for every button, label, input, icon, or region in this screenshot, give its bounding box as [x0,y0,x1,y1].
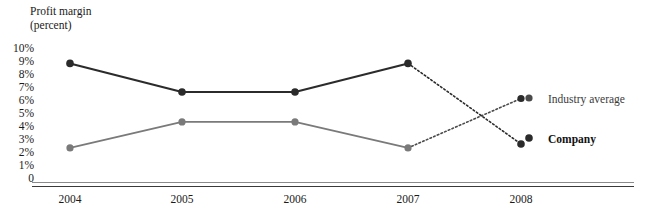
data-point [517,140,525,148]
company-solid-line [70,63,408,92]
data-point [517,95,524,102]
company-projection-line [408,63,521,144]
legend-company-marker [525,134,533,142]
data-point [178,118,185,125]
data-point [404,60,412,68]
legend-item-company: Company [548,133,596,145]
legend-item-industry-average: Industry average [548,93,625,105]
x-axis-tick-2008: 2008 [491,193,551,205]
data-point [66,60,74,68]
x-axis-tick-2006: 2006 [265,193,325,205]
legend-markers [525,94,533,141]
series-industry-average [66,95,524,152]
data-point [291,118,298,125]
x-axis-tick-2007: 2007 [378,193,438,205]
data-point [291,88,299,96]
x-axis-tick-2004: 2004 [40,193,100,205]
chart-figure: Profit margin (percent) 10% 9% 8% 7% 6% … [0,0,669,219]
axis-rule-top [32,182,634,183]
axis-rule-bottom [32,186,634,187]
industry-average-markers [66,95,524,152]
industry-average-projection-line [408,99,521,148]
company-markers [66,60,525,148]
data-point [178,88,186,96]
data-point [66,144,73,151]
legend-industry-marker [525,94,532,101]
industry-average-solid-line [70,122,408,148]
x-axis-tick-2005: 2005 [152,193,212,205]
data-point [404,144,411,151]
series-company [66,60,525,148]
